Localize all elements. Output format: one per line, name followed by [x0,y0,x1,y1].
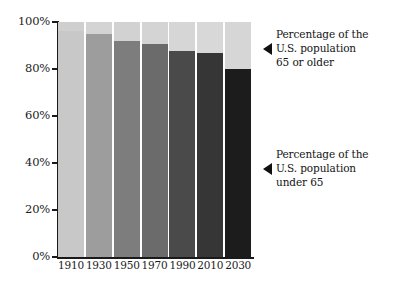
bar-1950 [114,22,140,257]
y-axis-tick-label: 40% [4,157,50,169]
bar-segment-over-65 [58,22,84,31]
bar-segment-over-65 [169,22,195,51]
bar-segment-over-65 [114,22,140,41]
bar-segment-under-65 [86,34,112,257]
x-axis-tick-label-1970: 1970 [141,260,169,272]
x-axis-tick-label-1950: 1950 [113,260,141,272]
x-axis-tick-label-1910: 1910 [57,260,85,272]
annotation-under-65: Percentage of the U.S. population under … [263,148,395,190]
annotation-under-65-label: Percentage of the U.S. population under … [276,148,368,190]
y-axis-tick-label: 100% [4,16,50,28]
annotation-over-65: Percentage of the U.S. population 65 or … [263,28,395,70]
y-axis-tick-label: 60% [4,110,50,122]
bar-segment-over-65 [142,22,168,44]
left-triangle-icon [263,163,272,175]
bar-segment-over-65 [225,22,251,69]
bar-segment-under-65 [58,31,84,257]
bar-2010 [197,22,223,257]
annotation-over-65-label: Percentage of the U.S. population 65 or … [276,28,368,70]
bar-segment-over-65 [86,22,112,34]
x-axis-tick-label-2010: 2010 [196,260,224,272]
x-axis-tick-label-2030: 2030 [224,260,252,272]
y-axis-tick-label: 0% [4,251,50,263]
y-axis-tick-label: 80% [4,63,50,75]
bar-1990 [169,22,195,257]
x-axis-tick-label-1930: 1930 [85,260,113,272]
x-axis-tick-label-1990: 1990 [168,260,196,272]
bar-segment-under-65 [197,53,223,257]
stacked-bar-chart: 100%80%60%40%20%0% 191019301950197019902… [0,0,401,282]
bar-segment-over-65 [197,22,223,53]
bar-segment-under-65 [114,41,140,257]
y-axis-tick-label: 20% [4,204,50,216]
bar-segment-under-65 [225,69,251,257]
bar-1930 [86,22,112,257]
bar-1910 [58,22,84,257]
left-triangle-icon [263,43,272,55]
bar-1970 [142,22,168,257]
bar-2030 [225,22,251,257]
bar-segment-under-65 [169,51,195,257]
bar-segment-under-65 [142,44,168,257]
plot-area [58,22,253,257]
